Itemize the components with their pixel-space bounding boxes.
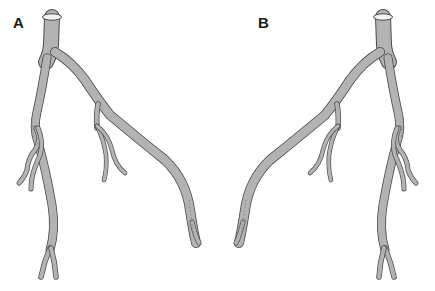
artery-diagram xyxy=(0,0,435,291)
panel-b-artery-tree xyxy=(236,14,416,277)
panel-a-artery-tree xyxy=(19,14,199,277)
